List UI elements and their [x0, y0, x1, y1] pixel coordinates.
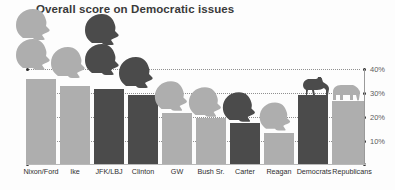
x-label-nixon-ford: Nixon/Ford: [22, 167, 60, 176]
plot-area: 40% 30% 20% 10%: [0, 0, 395, 190]
bar-jfk-lbj[interactable]: [94, 89, 124, 165]
ytick-label-30: 30%: [370, 89, 385, 98]
bar-gw[interactable]: [162, 113, 192, 165]
x-label-bush-sr: Bush Sr.: [195, 167, 227, 176]
elephant-icon: [331, 84, 365, 102]
president-head-icon-jfk: [82, 13, 124, 47]
bar-republicans[interactable]: [332, 101, 364, 165]
bar-bush-sr[interactable]: [196, 118, 226, 165]
president-head-icon-reagan: [257, 101, 295, 133]
bar-democrats[interactable]: [298, 95, 328, 165]
chart-container: Overall score on Democratic issues 40% 3…: [0, 0, 395, 190]
x-label-reagan: Reagan: [264, 167, 294, 176]
ytick-label-40: 40%: [370, 65, 385, 74]
bar-reagan[interactable]: [264, 133, 294, 165]
bar-nixon-ford[interactable]: [26, 79, 56, 165]
donkey-icon: [297, 77, 331, 96]
x-label-democrats: Democrats: [294, 167, 334, 176]
president-head-icon-nixon: [13, 8, 55, 42]
president-head-icon-carter: [220, 91, 260, 124]
x-label-republicans: Republicans: [330, 167, 374, 176]
ytick-label-20: 20%: [370, 113, 385, 122]
bar-ike[interactable]: [60, 86, 90, 165]
x-label-carter: Carter: [230, 167, 260, 176]
x-label-ike: Ike: [60, 167, 90, 176]
x-label-clinton: Clinton: [127, 167, 159, 176]
baseline-axis: [26, 164, 366, 165]
bar-carter[interactable]: [230, 123, 260, 165]
x-label-gw: GW: [162, 167, 192, 176]
ytick-label-10: 10%: [370, 137, 385, 146]
x-label-jfk-lbj: JFK/LBJ: [92, 167, 126, 176]
